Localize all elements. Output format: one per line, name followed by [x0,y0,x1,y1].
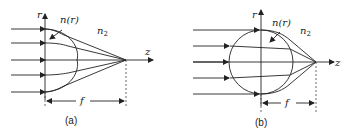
z-axis-label-b: z [334,57,341,68]
index-label-a: n(r) [60,14,79,25]
caption-b: (b) [255,117,267,128]
medium-label-a: n2 [97,25,108,38]
z-axis-label-a: z [144,46,151,57]
panel-b: r z n(r) n2 f (b) [193,9,341,128]
focal-label-a: f [79,95,86,106]
converging-rays-a [45,29,126,92]
r-axis-label-b: r [252,9,258,20]
panel-a: r z n(r) n2 f (a) [11,9,153,126]
figure-canvas: r z n(r) n2 f (a) [0,0,349,136]
incoming-rays-a [11,29,45,92]
r-axis-label-a: r [37,9,43,20]
medium-label-b: n2 [300,25,311,38]
index-label-b: n(r) [272,17,291,28]
focal-label-b: f [284,97,291,108]
caption-a: (a) [65,115,77,126]
